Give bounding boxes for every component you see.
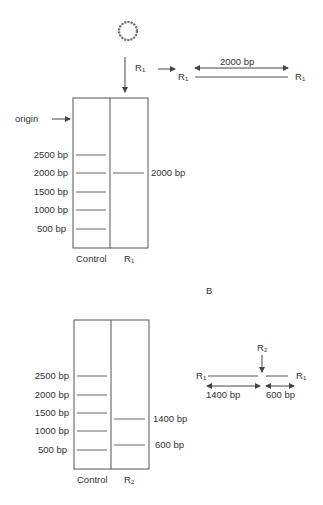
linear-fragment-map: R1 R1 2000 bp (178, 56, 306, 82)
lane-label-r1: R1 (124, 253, 135, 264)
origin-label: origin (15, 113, 38, 124)
svg-text:R1: R1 (295, 71, 306, 82)
svg-text:1500 bp: 1500 bp (34, 186, 68, 197)
svg-text:2000 bp: 2000 bp (34, 167, 68, 178)
svg-text:1400 bp: 1400 bp (206, 389, 240, 400)
ladder-labels-b: 2500 bp 2000 bp 1500 bp 1000 bp 500 bp (35, 370, 69, 455)
panel-b-label: B (206, 285, 212, 296)
svg-text:600 bp: 600 bp (266, 389, 295, 400)
enzyme-label-r1: R1 (135, 62, 146, 73)
svg-text:R2: R2 (257, 342, 268, 353)
band-label-1400: 1400 bp (153, 413, 187, 424)
svg-text:R1: R1 (296, 370, 307, 381)
svg-text:500 bp: 500 bp (37, 223, 66, 234)
gel-b (74, 320, 149, 469)
svg-text:1000 bp: 1000 bp (34, 204, 68, 215)
band-label-600: 600 bp (155, 439, 184, 450)
ladder-labels-a: 2500 bp 2000 bp 1500 bp 1000 bp 500 bp (34, 149, 68, 234)
plasmid-icon (119, 22, 137, 40)
band-label-2000: 2000 bp (151, 167, 185, 178)
svg-text:2000 bp: 2000 bp (35, 389, 69, 400)
restriction-digest-diagram: R1 R1 R1 2000 bp origin 2500 bp 2000 bp … (0, 0, 323, 505)
lane-label-control: Control (76, 253, 107, 264)
lane-label-r2: R2 (124, 474, 135, 485)
gel-a (73, 98, 148, 248)
svg-text:R1: R1 (178, 71, 189, 82)
svg-text:1000 bp: 1000 bp (35, 425, 69, 436)
svg-text:2500 bp: 2500 bp (35, 370, 69, 381)
fragment-length-label: 2000 bp (220, 56, 254, 67)
fragment-map-b: R2 R1 R1 1400 bp 600 bp (196, 342, 307, 400)
lane-label-control: Control (77, 474, 108, 485)
svg-text:500 bp: 500 bp (38, 444, 67, 455)
svg-text:2500 bp: 2500 bp (34, 149, 68, 160)
svg-text:R1: R1 (196, 370, 207, 381)
svg-text:1500 bp: 1500 bp (35, 407, 69, 418)
